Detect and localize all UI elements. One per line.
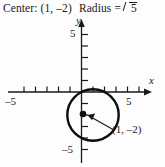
center-point-marker [80, 111, 87, 118]
y-tick-label-positive-five: 5 [70, 27, 76, 39]
circle-graph-figure: Center: (1, –2)Radius = 5 [0, 0, 165, 167]
x-axis-label: x [149, 74, 154, 86]
y-axis-label: y [76, 14, 81, 26]
annotation-arrow [87, 114, 113, 130]
coordinate-plane [0, 0, 165, 167]
center-point-annotation: (1, –2) [112, 123, 141, 135]
x-axis-arrow-icon [144, 89, 152, 96]
x-tick-label-positive-five: 5 [126, 95, 132, 107]
y-tick-label-negative-five: –5 [62, 143, 73, 155]
x-tick-label-negative-five: –5 [5, 95, 16, 107]
